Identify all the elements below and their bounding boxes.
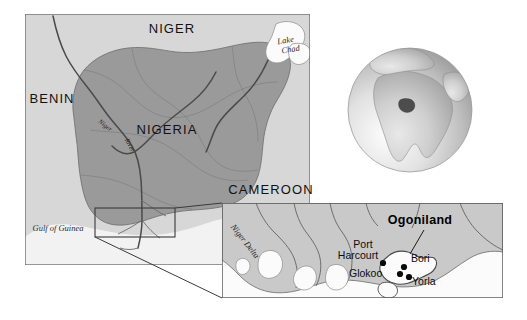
ogoniland-region-south-lobe bbox=[378, 282, 398, 298]
figure-root: NIGER BENIN NIGERIA CAMEROON Lake Chad G… bbox=[0, 0, 527, 320]
country-label-cameroon: CAMEROON bbox=[228, 182, 313, 197]
country-label-benin: BENIN bbox=[29, 91, 74, 106]
map-canvas: NIGER BENIN NIGERIA CAMEROON Lake Chad G… bbox=[0, 0, 527, 320]
ogoniland-label: Ogoniland bbox=[388, 213, 453, 227]
place-label-port-harcourt-line2: Harcourt bbox=[338, 249, 378, 261]
place-dot-glokoo bbox=[397, 271, 403, 277]
globe-group bbox=[348, 47, 472, 172]
country-label-niger: NIGER bbox=[149, 21, 196, 36]
place-label-glokoo: Glokoo bbox=[349, 267, 382, 279]
place-dot-yorla bbox=[406, 274, 412, 280]
place-label-bori: Bori bbox=[411, 252, 430, 264]
place-dot-port-harcourt bbox=[380, 260, 386, 266]
place-label-yorla: Yorla bbox=[412, 275, 436, 287]
place-dot-bori bbox=[401, 264, 407, 270]
gulf-of-guinea-label: Gulf of Guinea bbox=[33, 223, 84, 233]
country-label-nigeria: NIGERIA bbox=[136, 122, 197, 137]
